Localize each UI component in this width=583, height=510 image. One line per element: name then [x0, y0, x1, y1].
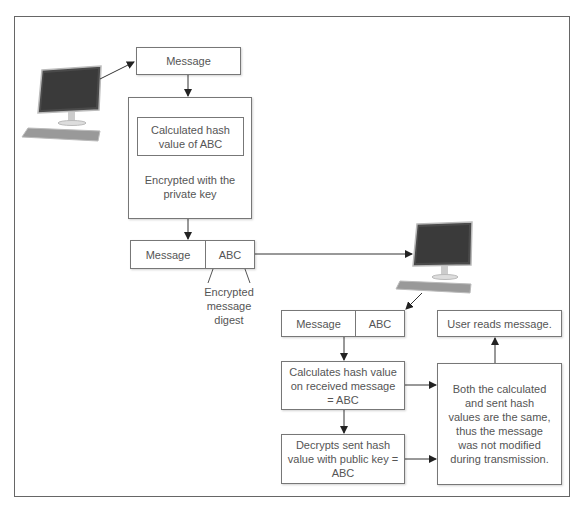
digest-label: Encrypted message digest — [196, 285, 262, 327]
message-box: Message — [136, 47, 241, 75]
decrypt-hash-label: Decrypts sent hash value with public key… — [282, 438, 404, 480]
received-message-part: Message — [282, 311, 355, 336]
signed-message-part: Message — [131, 241, 205, 268]
calculate-hash-label: Calculates hash value on received messag… — [282, 365, 404, 407]
received-message-box: Message ABC — [281, 310, 405, 337]
comparison-box: Both the calculated and sent hash values… — [437, 363, 562, 485]
signed-digest-part: ABC — [205, 241, 254, 268]
message-label: Message — [166, 54, 211, 68]
user-reads-label: User reads message. — [447, 317, 552, 331]
encrypt-note: Encrypted with the private key — [140, 173, 240, 201]
hash-value-label: Calculated hash value of ABC — [138, 123, 243, 151]
signed-message-box: Message ABC — [130, 240, 255, 269]
comparison-label: Both the calculated and sent hash values… — [438, 382, 561, 466]
decrypt-hash-box: Decrypts sent hash value with public key… — [281, 434, 405, 484]
hash-value-box: Calculated hash value of ABC — [137, 117, 244, 156]
received-digest-part: ABC — [355, 311, 404, 336]
user-reads-box: User reads message. — [437, 310, 562, 337]
calculate-hash-box: Calculates hash value on received messag… — [281, 361, 405, 410]
